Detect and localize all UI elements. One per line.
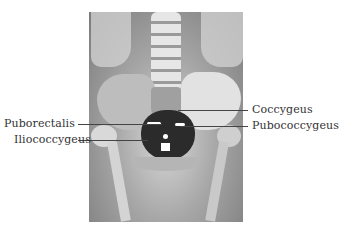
- right-femur: [205, 141, 229, 222]
- label-iliococcygeus: Iliococcygeus: [14, 133, 91, 146]
- left-ribs: [91, 12, 131, 67]
- marker-bottom: [161, 143, 170, 151]
- leader-line-puborectalis: [78, 124, 162, 125]
- label-coccygeus: Coccygeus: [252, 103, 313, 116]
- leader-line-coccygeus: [178, 110, 248, 111]
- marker-center: [163, 134, 168, 139]
- spine: [151, 12, 181, 92]
- label-pubococcygeus: Pubococcygeus: [252, 119, 339, 132]
- leader-line-pubococcygeus: [180, 126, 248, 127]
- pubic-arch: [134, 157, 198, 171]
- pelvic-floor: [141, 110, 195, 160]
- right-ribs: [201, 12, 243, 67]
- pelvis-photo: [89, 12, 243, 222]
- left-femur: [107, 141, 131, 222]
- label-puborectalis: Puborectalis: [4, 117, 75, 130]
